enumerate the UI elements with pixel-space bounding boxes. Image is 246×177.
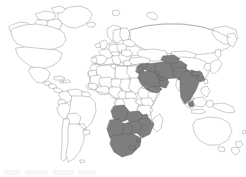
country-jamaica [60,81,64,83]
world-map-svg [0,0,246,177]
caption-strip [4,170,96,175]
world-map-figure [0,0,246,177]
country-uruguay [83,130,90,135]
